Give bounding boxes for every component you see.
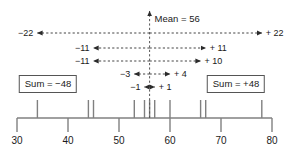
axis-tick-label-70: 70 xyxy=(215,136,226,146)
sum-negative-box: Sum = −48 xyxy=(19,75,77,93)
deviation-label-left-3: −3 xyxy=(120,70,130,79)
axis-tick-label-80: 80 xyxy=(266,136,277,146)
deviation-label-left-2: −11 xyxy=(75,57,90,66)
axis-tick-label-60: 60 xyxy=(164,136,175,146)
mean-line-label: Mean = 56 xyxy=(155,14,200,24)
deviation-label-right-3: + 4 xyxy=(174,70,187,79)
axis-tick-label-30: 30 xyxy=(11,136,22,146)
sum-positive-box: Sum = +48 xyxy=(207,75,265,93)
deviation-label-right-4: + 1 xyxy=(159,83,172,92)
deviation-label-right-1: + 11 xyxy=(210,44,227,53)
deviation-label-right-0: + 22 xyxy=(266,29,284,38)
axis-tick-label-40: 40 xyxy=(62,136,73,146)
deviation-label-right-2: + 10 xyxy=(205,57,223,66)
figure-canvas: Mean = 56 −22+ 22−11+ 11−11+ 10−3+ 4−1+ … xyxy=(0,0,294,157)
deviation-label-left-1: −11 xyxy=(75,44,90,53)
deviation-label-left-4: −1 xyxy=(130,83,140,92)
axis-tick-label-50: 50 xyxy=(113,136,124,146)
deviation-label-left-0: −22 xyxy=(18,29,33,38)
